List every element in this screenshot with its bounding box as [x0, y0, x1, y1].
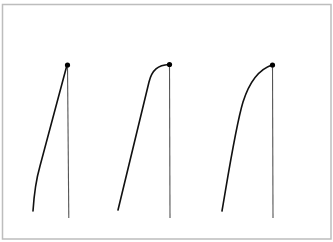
- diagram-canvas: [0, 0, 333, 242]
- panel-3-vertical-line: [273, 65, 274, 218]
- panel-2-vertical-line: [170, 65, 171, 219]
- panel-2-endpoint: [167, 62, 172, 67]
- panel-1-endpoint: [65, 62, 70, 67]
- panel-3-endpoint: [270, 62, 275, 67]
